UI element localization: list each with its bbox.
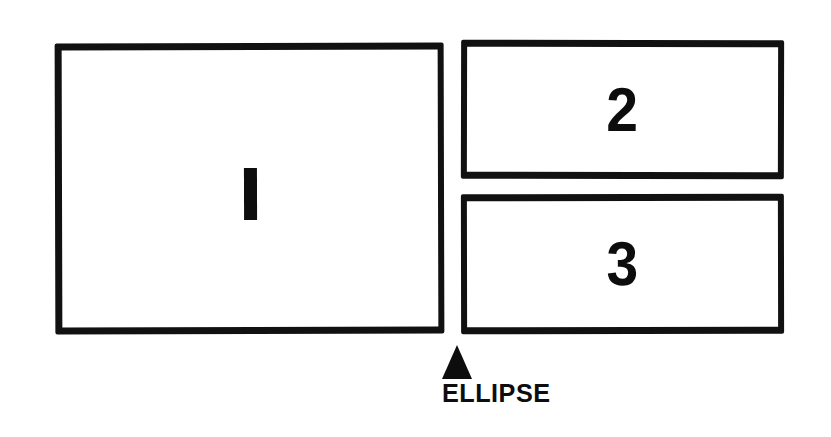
panel-2-label: 2 bbox=[467, 78, 778, 141]
panel-1-label bbox=[62, 156, 438, 221]
numeral-one-stroke bbox=[243, 168, 256, 220]
panel-2-label-text: 2 bbox=[607, 78, 639, 140]
callout-caption: ELLIPSE bbox=[442, 380, 551, 406]
up-triangle-icon bbox=[442, 345, 472, 379]
panel-3-label: 3 bbox=[467, 233, 778, 296]
panel-1 bbox=[55, 42, 445, 334]
panel-3-label-text: 3 bbox=[607, 233, 639, 295]
diagram-canvas: 2 3 ELLIPSE bbox=[0, 0, 831, 437]
panel-2: 2 bbox=[461, 40, 784, 180]
panel-3: 3 bbox=[461, 194, 784, 335]
callout-annotation: ELLIPSE bbox=[430, 342, 580, 412]
